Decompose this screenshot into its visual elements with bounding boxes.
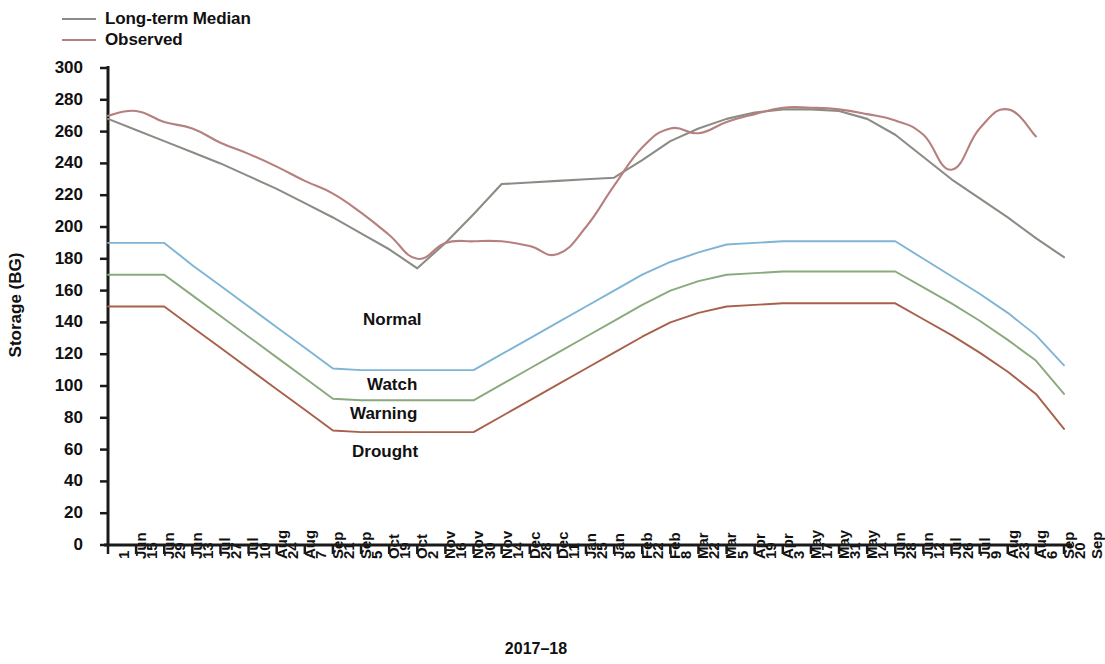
series-line-warning-threshold — [108, 303, 1064, 432]
x-tick-label: 20Sep — [1071, 531, 1105, 559]
series-line-normal-threshold — [108, 241, 1064, 370]
band-label: Watch — [367, 375, 417, 395]
series-line-observed — [108, 107, 1036, 259]
x-axis-title: 2017–18 — [0, 640, 1072, 658]
band-label: Drought — [352, 442, 418, 462]
band-label: Normal — [363, 310, 422, 330]
band-label: Warning — [350, 404, 417, 424]
series-line-watch-threshold — [108, 272, 1064, 401]
